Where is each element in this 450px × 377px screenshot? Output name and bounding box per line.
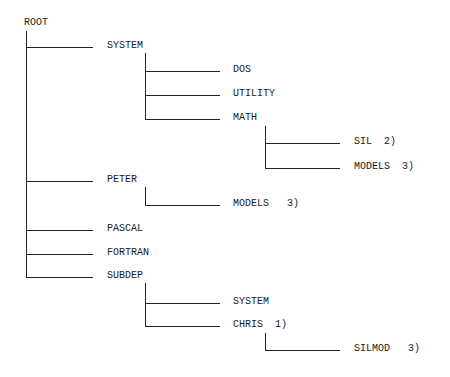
node-dos: DOS (233, 65, 251, 75)
node-root: ROOT (24, 18, 48, 28)
branch-line-subdep-system (145, 303, 220, 304)
node-chris: CHRIS 1) (233, 320, 287, 330)
node-peter-models: MODELS 3) (233, 199, 299, 209)
math-trunk-line (265, 126, 266, 169)
branch-line-math-models (265, 168, 340, 169)
chris-trunk-line (265, 333, 266, 351)
node-subdep-system: SYSTEM (233, 297, 269, 307)
node-sil: SIL 2) (354, 137, 396, 147)
node-math-models: MODELS 3) (354, 162, 414, 172)
node-silmod: SILMOD 3) (354, 344, 420, 354)
branch-line-utility (145, 95, 220, 96)
branch-line-math (145, 119, 220, 120)
branch-line-chris (145, 326, 220, 327)
node-utility: UTILITY (233, 89, 275, 99)
peter-trunk-line (145, 187, 146, 206)
node-fortran: FORTRAN (107, 248, 149, 258)
directory-tree-diagram: ROOT SYSTEM PETER PASCAL FORTRAN SUBDEP … (0, 0, 450, 377)
root-trunk-line (26, 31, 27, 278)
branch-line-system (26, 47, 93, 48)
branch-line-subdep (26, 277, 93, 278)
node-pascal: PASCAL (107, 224, 143, 234)
node-math: MATH (233, 113, 257, 123)
node-system: SYSTEM (107, 41, 143, 51)
branch-line-peter-models (145, 205, 220, 206)
branch-line-pascal (26, 230, 93, 231)
node-peter: PETER (107, 175, 137, 185)
system-trunk-line (145, 53, 146, 120)
branch-line-fortran (26, 254, 93, 255)
subdep-trunk-line (145, 283, 146, 326)
branch-line-silmod (265, 350, 340, 351)
branch-line-dos (145, 71, 220, 72)
branch-line-peter (26, 181, 93, 182)
node-subdep: SUBDEP (107, 271, 143, 281)
branch-line-sil (265, 143, 340, 144)
